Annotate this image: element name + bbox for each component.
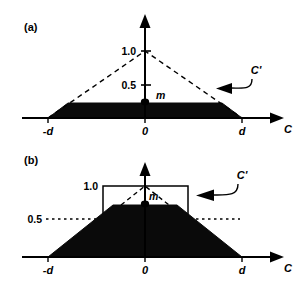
xtick-label-minus-d-b: -d	[43, 264, 54, 276]
figure-root: (a) 1.0 0.5 m -d 0 d C C'	[0, 0, 296, 284]
panel-b: (b) 1.0 0.5 m -d 0 d C C'	[0, 142, 296, 284]
panel-a-plot: (a) 1.0 0.5 m -d 0 d C C'	[0, 0, 296, 142]
xtick-label-minus-d-a: -d	[43, 125, 54, 137]
ytick-label-1p0-a: 1.0	[121, 45, 136, 57]
peak-point-label-a: m	[156, 89, 165, 101]
curve-label-b: C'	[237, 169, 248, 181]
panel-label-a: (a)	[24, 21, 38, 33]
panel-a: (a) 1.0 0.5 m -d 0 d C C'	[0, 0, 296, 142]
curve-label-a: C'	[251, 64, 262, 76]
peak-point-label-b: m	[149, 190, 158, 202]
x-axis-label-a: C	[284, 123, 293, 135]
x-axis-arrowhead-a	[270, 113, 284, 124]
curve-label-arrowhead-a	[216, 83, 232, 94]
peak-dot-b	[141, 201, 149, 208]
ytick-label-0p5-b: 0.5	[27, 213, 42, 225]
x-axis-arrowhead-b	[270, 252, 284, 263]
ytick-label-0p5-a: 0.5	[121, 79, 136, 91]
xtick-label-origin-a: 0	[142, 125, 149, 137]
x-axis-label-b: C	[284, 262, 293, 274]
curve-label-arrowhead-b	[196, 190, 214, 202]
y-axis-arrowhead-a	[140, 14, 151, 28]
panel-b-plot: (b) 1.0 0.5 m -d 0 d C C'	[0, 142, 296, 284]
panel-label-b: (b)	[24, 154, 38, 166]
ytick-label-1p0-b: 1.0	[83, 180, 98, 192]
xtick-label-d-b: d	[239, 264, 246, 276]
peak-dot-a	[141, 99, 149, 106]
xtick-label-d-a: d	[239, 125, 246, 137]
xtick-label-origin-b: 0	[142, 264, 149, 276]
y-axis-arrowhead-b	[140, 162, 151, 176]
curve-label-leader-b	[213, 184, 238, 195]
curve-label-leader-a	[231, 79, 252, 88]
